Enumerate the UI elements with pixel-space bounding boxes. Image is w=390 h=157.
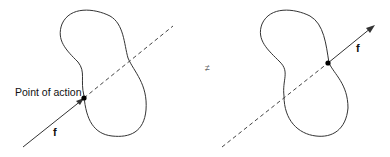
not-equal-symbol: ≠ <box>205 63 210 73</box>
left-force-label: f <box>53 126 57 138</box>
left-line-of-action <box>84 26 173 98</box>
diagram-canvas: Point of action f ≠ f <box>0 0 390 157</box>
right-force-label: f <box>356 42 360 54</box>
right-body-outline <box>260 10 348 136</box>
force-diagram <box>0 0 390 157</box>
right-arrowhead-icon <box>366 25 375 33</box>
left-point-of-action <box>81 95 86 100</box>
right-point-of-action <box>325 60 330 65</box>
left-body-outline <box>60 10 146 136</box>
right-line-of-action <box>222 63 328 147</box>
point-of-action-label: Point of action <box>15 86 82 98</box>
right-force-arrow <box>328 28 371 63</box>
left-force-arrow <box>23 100 82 147</box>
